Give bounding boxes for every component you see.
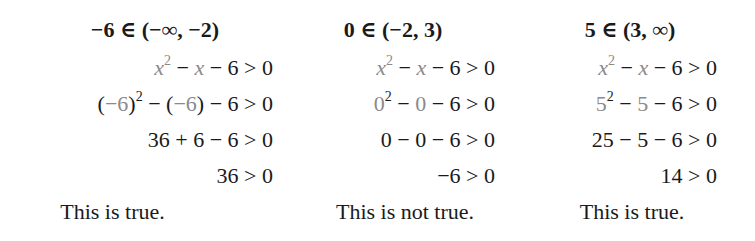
variable-x: x <box>416 55 426 80</box>
exponent: 2 <box>386 53 393 68</box>
test-value: 5 <box>585 17 596 42</box>
column-heading: 0 ∈ (−2, 3) <box>313 16 473 44</box>
exponent: 2 <box>608 53 615 68</box>
simplified-expression: 0 − 0 − 6 > 0 <box>381 126 495 154</box>
inequality-expression: x2 − x − 6 > 0 <box>154 54 273 82</box>
element-of-symbol: ∈ <box>355 17 382 42</box>
result-expression: 14 > 0 <box>661 162 717 190</box>
interval: (−2, 3) <box>382 17 442 42</box>
paren: ( <box>98 91 105 116</box>
column-heading: −6 ∈ (−∞, −2) <box>60 16 250 44</box>
test-value: −6 <box>91 17 115 42</box>
expression-rest: − 6 > 0 <box>426 55 495 80</box>
exponent: 2 <box>136 89 143 104</box>
interval: (3, ∞) <box>623 17 675 42</box>
operator: − <box>614 91 637 116</box>
inequality-expression: x2 − x − 6 > 0 <box>376 54 495 82</box>
variable-x: x <box>598 55 608 80</box>
variable-x: x <box>194 55 204 80</box>
simplified-expression: 36 + 6 − 6 > 0 <box>148 126 273 154</box>
substituted-value: 5 <box>637 91 648 116</box>
conclusion: This is true. <box>557 198 707 226</box>
interval: (−∞, −2) <box>142 17 219 42</box>
conclusion: This is true. <box>20 198 205 226</box>
result-expression: −6 > 0 <box>437 162 495 190</box>
test-column-five: 5 ∈ (3, ∞) x2 − x − 6 > 0 52 − 5 − 6 > 0… <box>497 0 719 241</box>
exponent: 2 <box>164 53 171 68</box>
column-heading: 5 ∈ (3, ∞) <box>565 16 695 44</box>
element-of-symbol: ∈ <box>596 17 623 42</box>
paren: ) <box>128 91 135 116</box>
operator: − <box>171 55 194 80</box>
substituted-value: 5 <box>596 91 607 116</box>
test-column-negative-six: −6 ∈ (−∞, −2) x2 − x − 6 > 0 (−6)2 − (−6… <box>0 0 275 241</box>
test-value: 0 <box>344 17 355 42</box>
substituted-expression: (−6)2 − (−6) − 6 > 0 <box>98 90 273 118</box>
expression-rest: − 6 > 0 <box>426 91 495 116</box>
element-of-symbol: ∈ <box>114 17 141 42</box>
inequality-expression: x2 − x − 6 > 0 <box>598 54 717 82</box>
substituted-value: 0 <box>374 91 385 116</box>
exponent: 2 <box>385 89 392 104</box>
substituted-expression: 52 − 5 − 6 > 0 <box>596 90 717 118</box>
variable-x: x <box>638 55 648 80</box>
operator: − <box>393 55 416 80</box>
variable-x: x <box>376 55 386 80</box>
conclusion: This is not true. <box>315 198 495 226</box>
exponent: 2 <box>607 89 614 104</box>
substituted-expression: 02 − 0 − 6 > 0 <box>374 90 495 118</box>
substituted-value: −6 <box>173 91 196 116</box>
expression-rest: − 6 > 0 <box>648 91 717 116</box>
result-expression: 36 > 0 <box>217 162 273 190</box>
test-column-zero: 0 ∈ (−2, 3) x2 − x − 6 > 0 02 − 0 − 6 > … <box>275 0 497 241</box>
operator: − <box>392 91 415 116</box>
operator: − <box>615 55 638 80</box>
expression-rest: − 6 > 0 <box>648 55 717 80</box>
expression-rest: − 6 > 0 <box>204 55 273 80</box>
expression-rest: − 6 > 0 <box>204 91 273 116</box>
substituted-value: 0 <box>415 91 426 116</box>
variable-x: x <box>154 55 164 80</box>
simplified-expression: 25 − 5 − 6 > 0 <box>592 126 717 154</box>
operator: − ( <box>143 91 174 116</box>
substituted-value: −6 <box>105 91 128 116</box>
